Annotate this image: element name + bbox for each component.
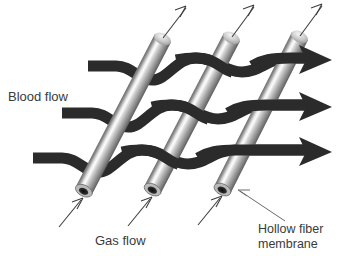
diagram-canvas: Blood flow Gas flow Hollow fiber membran… (0, 0, 340, 256)
label-hollow-fiber-line2: membrane (258, 237, 318, 251)
label-hollow-fiber-line1: Hollow fiber (258, 222, 323, 236)
label-blood-flow: Blood flow (8, 89, 69, 104)
hollow-fiber-membrane-diagram: Blood flow Gas flow Hollow fiber membran… (0, 0, 340, 256)
label-gas-flow: Gas flow (95, 233, 146, 248)
